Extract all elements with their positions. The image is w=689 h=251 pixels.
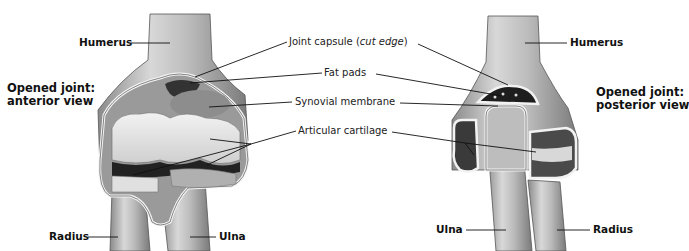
- label-humerus-posterior: Humerus: [570, 37, 623, 48]
- anterior-title-line2: anterior view: [7, 95, 95, 108]
- label-radius-posterior: Radius: [593, 224, 633, 235]
- posterior-view-illustration: [452, 16, 578, 251]
- anterior-view-title: Opened joint: anterior view: [7, 82, 95, 108]
- label-ulna-posterior: Ulna: [436, 224, 463, 235]
- label-fat-pads: Fat pads: [324, 68, 366, 78]
- joint-capsule-italic: cut edge: [360, 36, 404, 47]
- posterior-view-title: Opened joint: posterior view: [596, 86, 689, 112]
- label-joint-capsule: Joint capsule (cut edge): [289, 37, 408, 47]
- label-articular-cartilage: Articular cartilage: [298, 126, 388, 136]
- posterior-title-line2: posterior view: [596, 99, 689, 112]
- joint-capsule-close: ): [404, 36, 408, 47]
- label-synovial-membrane: Synovial membrane: [295, 97, 395, 107]
- anterior-view-illustration: [98, 14, 248, 251]
- label-humerus-anterior: Humerus: [79, 37, 132, 48]
- label-radius-anterior: Radius: [49, 231, 89, 242]
- joint-capsule-text: Joint capsule (: [289, 36, 360, 47]
- label-ulna-anterior: Ulna: [219, 231, 246, 242]
